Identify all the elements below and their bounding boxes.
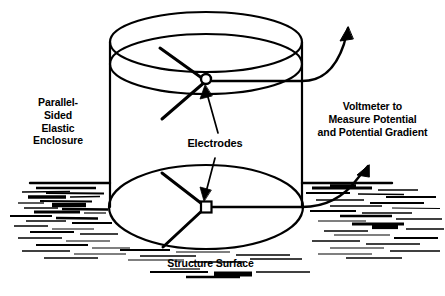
upper-lead-wire: [302, 28, 348, 81]
leader-arrowhead-bottom: [200, 187, 211, 201]
label-voltmeter: Voltmeter to Measure Potential and Poten…: [300, 100, 445, 138]
upper-lead-arrowhead: [340, 27, 353, 41]
bottom-spoke-upper-left: [162, 173, 206, 207]
label-parallel-sided-elastic-enclosure: Parallel- Sided Elastic Enclosure: [6, 96, 110, 147]
top-electrode: [201, 74, 211, 84]
bottom-electrode: [201, 202, 212, 213]
label-structure-surface: Structure Surface: [133, 257, 288, 270]
top-spoke-upper-left: [160, 48, 206, 81]
label-electrodes: Electrodes: [160, 137, 270, 150]
bottom-electrode-assembly: [162, 173, 302, 247]
lower-lead-arrowhead: [357, 165, 369, 177]
ground-texture-right: [306, 186, 444, 258]
top-spoke-lower-left: [162, 81, 206, 119]
diagram-canvas: Parallel- Sided Elastic Enclosure Voltme…: [0, 0, 445, 296]
bottom-spoke-lower-left: [163, 207, 206, 247]
leader-arrowhead-top: [200, 85, 212, 99]
